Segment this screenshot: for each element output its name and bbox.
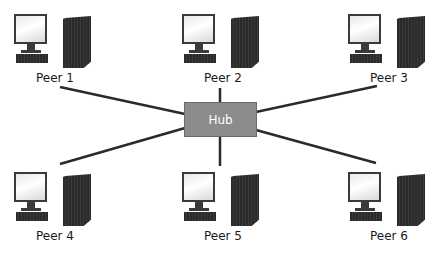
monitor-icon: [182, 14, 215, 44]
tower-pc-icon: [397, 16, 425, 68]
monitor-base: [189, 50, 209, 53]
monitor-icon: [182, 172, 215, 202]
keyboard-icon: [350, 212, 382, 221]
tower-pc-icon: [63, 174, 91, 226]
keyboard-icon: [350, 54, 382, 63]
keyboard-icon: [16, 54, 48, 63]
monitor-base: [21, 50, 41, 53]
keyboard-icon: [16, 212, 48, 221]
peer-6: Peer 6: [346, 172, 444, 252]
tower-pc-icon: [231, 174, 259, 226]
monitor-icon: [14, 14, 47, 44]
peer-3: Peer 3: [346, 14, 444, 94]
monitor-base: [355, 208, 375, 211]
peer-5: Peer 5: [180, 172, 280, 252]
link-peer6-hub: [256, 130, 376, 163]
peer-label: Peer 4: [12, 229, 98, 243]
keyboard-icon: [184, 54, 216, 63]
peer-1: Peer 1: [12, 14, 112, 94]
peer-4: Peer 4: [12, 172, 112, 252]
monitor-icon: [348, 172, 381, 202]
monitor-base: [189, 208, 209, 211]
monitor-icon: [14, 172, 47, 202]
peer-label: Peer 5: [180, 229, 266, 243]
monitor-base: [355, 50, 375, 53]
peer-label: Peer 3: [346, 71, 432, 85]
peer-label: Peer 6: [346, 229, 432, 243]
peer-label: Peer 2: [180, 71, 266, 85]
hub-box: Hub: [184, 102, 257, 137]
tower-pc-icon: [63, 16, 91, 68]
peer-2: Peer 2: [180, 14, 280, 94]
peer-label: Peer 1: [12, 71, 98, 85]
tower-pc-icon: [397, 174, 425, 226]
link-peer4-hub: [60, 128, 185, 164]
tower-pc-icon: [231, 16, 259, 68]
keyboard-icon: [184, 212, 216, 221]
hub-label: Hub: [208, 113, 232, 127]
monitor-icon: [348, 14, 381, 44]
monitor-base: [21, 208, 41, 211]
